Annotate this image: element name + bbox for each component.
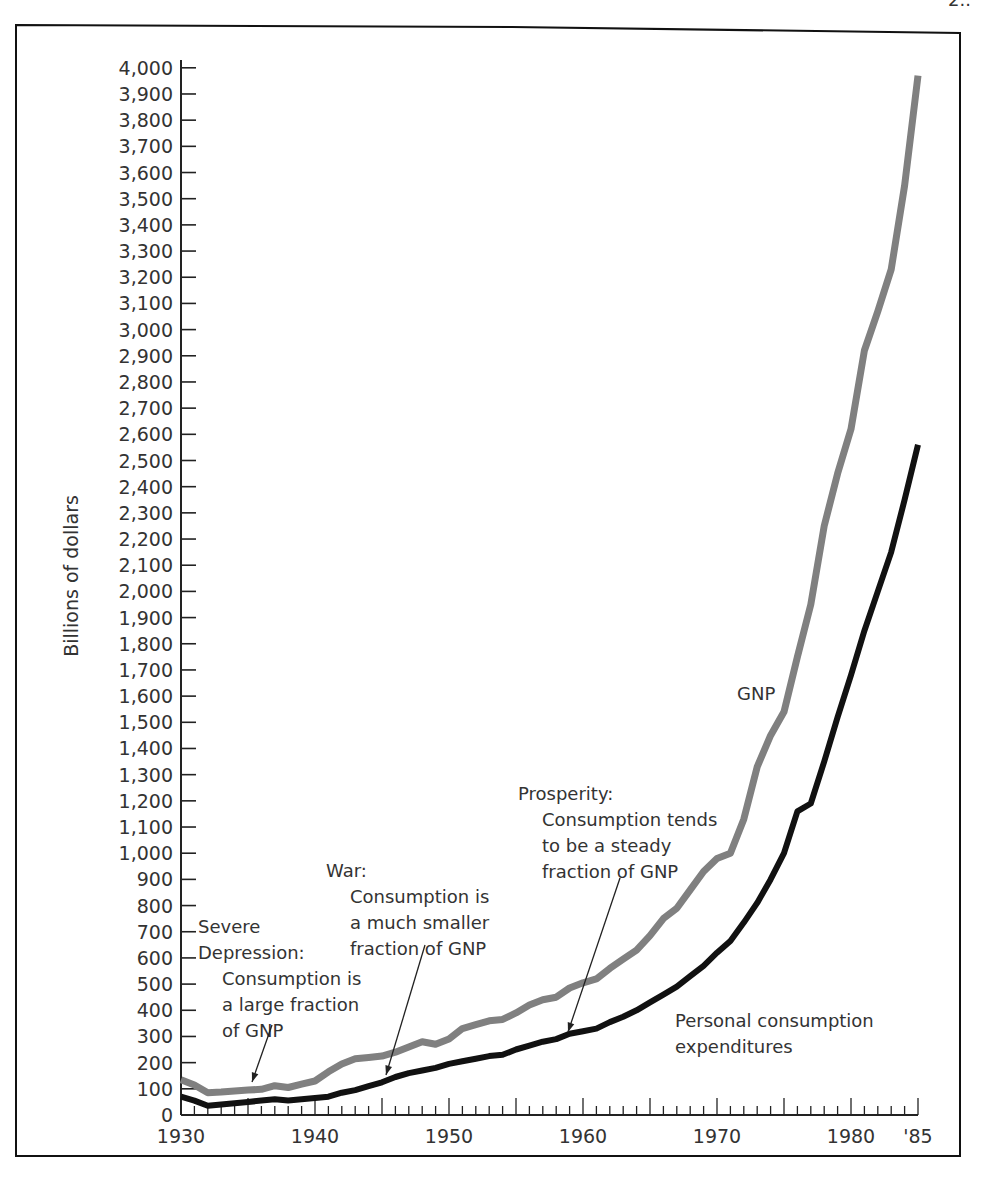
y-axis-label: Billions of dollars [60, 495, 82, 657]
annotation-line: Consumption tends [542, 809, 717, 830]
y-tick-label: 3,500 [119, 188, 173, 210]
y-tick-label: 2,900 [119, 345, 173, 367]
y-tick-label: 800 [137, 895, 173, 917]
y-tick-label: 2,600 [119, 423, 173, 445]
annotation-line: Prosperity: [518, 783, 613, 804]
arrow-prosperity [568, 878, 620, 1032]
pce-series-label: Personal consumption [675, 1010, 874, 1031]
y-tick-label: 3,800 [119, 109, 173, 131]
arrow-war-head [385, 1065, 392, 1075]
y-tick-label: 1,600 [119, 685, 173, 707]
pce-series-label-2: expenditures [675, 1036, 793, 1057]
y-tick-label: 300 [137, 1025, 173, 1047]
x-tick-label: 1940 [291, 1125, 339, 1147]
annotation-line: a much smaller [350, 912, 490, 933]
x-tick-label: 1970 [693, 1125, 741, 1147]
annotation-depression: SevereDepression:Consumption isa large f… [198, 916, 361, 1041]
y-tick-label: 900 [137, 868, 173, 890]
y-tick-label: 1,500 [119, 711, 173, 733]
annotation-war: War:Consumption isa much smallerfraction… [326, 860, 490, 959]
y-tick-label: 500 [137, 973, 173, 995]
y-tick-label: 4,000 [119, 57, 173, 79]
y-tick-label: 3,900 [119, 83, 173, 105]
annotations: SevereDepression:Consumption isa large f… [198, 683, 874, 1082]
y-tick-label: 1,000 [119, 842, 173, 864]
y-tick-label: 700 [137, 921, 173, 943]
y-tick-label: 3,100 [119, 292, 173, 314]
x-tick-label: 1950 [425, 1125, 473, 1147]
arrow-depression-head [252, 1072, 258, 1082]
y-tick-label: 1,800 [119, 633, 173, 655]
y-tick-label: 3,600 [119, 162, 173, 184]
y-tick-label: 1,200 [119, 790, 173, 812]
y-tick-label: 0 [161, 1104, 173, 1126]
arrow-war [386, 945, 425, 1075]
y-tick-label: 2,300 [119, 502, 173, 524]
y-tick-label: 3,200 [119, 266, 173, 288]
y-tick-label: 1,100 [119, 816, 173, 838]
y-tick-label: 3,300 [119, 240, 173, 262]
annotation-line: to be a steady [542, 835, 672, 856]
x-tick-label: 1980 [827, 1125, 875, 1147]
x-tick-label: '85 [903, 1125, 932, 1147]
y-tick-label: 2,200 [119, 528, 173, 550]
annotation-line: fraction of GNP [350, 938, 486, 959]
y-tick-label: 2,800 [119, 371, 173, 393]
gnp-series-label: GNP [737, 683, 775, 704]
y-tick-label: 1,400 [119, 737, 173, 759]
y-tick-label: 1,700 [119, 659, 173, 681]
y-tick-label: 1,900 [119, 607, 173, 629]
annotation-prosperity: Prosperity:Consumption tendsto be a stea… [518, 783, 717, 882]
y-tick-label: 3,700 [119, 135, 173, 157]
y-tick-label: 2,700 [119, 397, 173, 419]
x-tick-label: 1960 [559, 1125, 607, 1147]
annotation-line: fraction of GNP [542, 861, 678, 882]
y-tick-label: 3,000 [119, 319, 173, 341]
annotation-line: Severe [198, 916, 260, 937]
annotation-line: of GNP [222, 1020, 283, 1041]
y-tick-label: 600 [137, 947, 173, 969]
y-tick-label: 2,500 [119, 450, 173, 472]
y-tick-label: 1,300 [119, 764, 173, 786]
annotation-line: Consumption is [222, 968, 361, 989]
annotation-line: Consumption is [350, 886, 489, 907]
x-tick-label: 1930 [157, 1125, 205, 1147]
y-tick-label: 400 [137, 999, 173, 1021]
gnp-line [181, 76, 918, 1093]
y-tick-label: 2,400 [119, 476, 173, 498]
y-tick-label: 2,100 [119, 554, 173, 576]
annotation-line: War: [326, 860, 367, 881]
annotation-line: a large fraction [222, 994, 359, 1015]
annotation-line: Depression: [198, 942, 305, 963]
page-number-fragment: 2.. [948, 0, 971, 10]
y-tick-label: 100 [137, 1078, 173, 1100]
y-tick-label: 200 [137, 1052, 173, 1074]
chart-svg: 2.. 01002003004005006007008009001,0001,1… [0, 0, 985, 1193]
y-tick-label: 2,000 [119, 580, 173, 602]
y-tick-label: 3,400 [119, 214, 173, 236]
